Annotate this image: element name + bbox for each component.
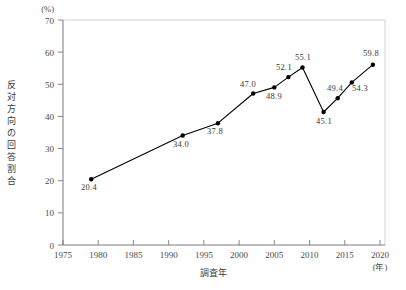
- y-axis-unit-label: (%): [41, 4, 54, 14]
- data-label-54-3: 54.3: [352, 83, 368, 93]
- y-tick-label-20: 20: [45, 176, 55, 186]
- data-point-marker: [300, 65, 304, 69]
- x-tick-label-2020: 2020: [371, 250, 390, 260]
- y-tick-label-40: 40: [45, 112, 55, 122]
- y-title-char-2: 方: [7, 103, 16, 114]
- y-axis: 70 60 50 40 30 20 10 0 (%): [41, 4, 63, 251]
- x-tick-label-2005: 2005: [265, 250, 284, 260]
- y-tick-label-50: 50: [45, 80, 55, 90]
- x-axis-title: 調査年: [200, 267, 227, 278]
- x-tick-label-1980: 1980: [89, 250, 108, 260]
- y-title-char-3: 向: [7, 115, 16, 126]
- y-title-char-8: 合: [7, 175, 16, 186]
- y-title-char-4: の: [7, 128, 16, 138]
- chart-page: 70 60 50 40 30 20 10 0 (%) 反 対 方 向 の 回 答…: [0, 0, 406, 290]
- y-tick-label-70: 70: [45, 16, 55, 26]
- data-point-marker: [251, 91, 255, 95]
- y-title-char-7: 割: [7, 163, 16, 174]
- x-tick-label-2010: 2010: [301, 250, 320, 260]
- data-point-marker: [371, 62, 375, 66]
- x-axis-unit-label: (年): [373, 262, 388, 272]
- data-point-marker: [216, 121, 220, 125]
- y-tick-label-60: 60: [45, 48, 55, 58]
- plot-frame: [63, 20, 385, 245]
- data-label-20-4: 20.4: [81, 182, 98, 192]
- data-label-45-1: 45.1: [316, 116, 332, 126]
- x-axis: 1975 1980 1985 1990 1995 2000 2005 2010 …: [54, 240, 390, 278]
- y-tick-label-30: 30: [45, 144, 55, 154]
- y-axis-title: 反 対 方 向 の 回 答 割 合: [7, 80, 16, 186]
- y-tick-label-0: 0: [50, 241, 55, 251]
- data-label-49-4: 49.4: [327, 83, 344, 93]
- x-tick-label-2000: 2000: [230, 250, 249, 260]
- y-tick-label-10: 10: [45, 208, 55, 218]
- data-label-47-0: 47.0: [240, 79, 256, 89]
- data-label-34-0: 34.0: [173, 139, 189, 149]
- data-label-55-1: 55.1: [295, 52, 311, 62]
- data-point-marker: [89, 177, 93, 181]
- data-point-marker: [336, 96, 340, 100]
- x-tick-label-1985: 1985: [124, 250, 143, 260]
- data-point-marker: [321, 110, 325, 114]
- x-tick-label-1995: 1995: [195, 250, 214, 260]
- y-title-char-1: 対: [7, 91, 16, 102]
- y-title-char-6: 答: [7, 151, 16, 162]
- line-chart: 70 60 50 40 30 20 10 0 (%) 反 対 方 向 の 回 答…: [0, 0, 406, 290]
- data-label-59-8: 59.8: [363, 48, 379, 58]
- data-label-48-9: 48.9: [266, 91, 282, 101]
- y-title-char-5: 回: [7, 140, 16, 150]
- data-point-marker: [286, 75, 290, 79]
- data-series: [89, 62, 375, 181]
- data-point-labels: 20.4 34.0 37.8 47.0 48.9 52.1 55.1 45.1 …: [81, 48, 379, 192]
- data-point-marker: [181, 133, 185, 137]
- data-point-marker: [272, 85, 276, 89]
- x-tick-label-1975: 1975: [54, 250, 73, 260]
- data-label-52-1: 52.1: [276, 62, 292, 72]
- x-tick-label-2015: 2015: [336, 250, 355, 260]
- data-label-37-8: 37.8: [207, 126, 223, 136]
- y-title-char-0: 反: [7, 80, 16, 90]
- x-tick-label-1990: 1990: [160, 250, 179, 260]
